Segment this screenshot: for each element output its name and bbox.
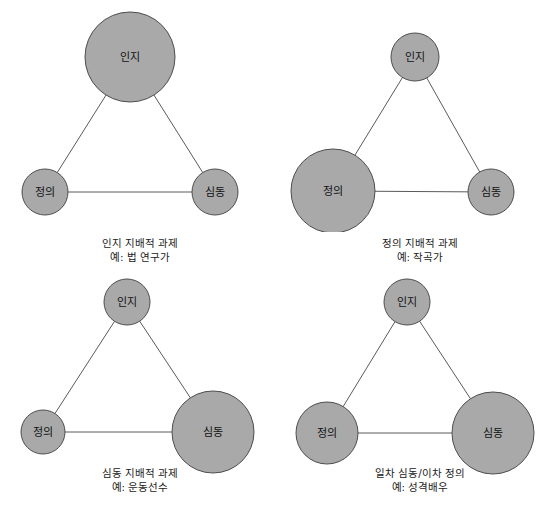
node-심동[interactable]: 심동 xyxy=(192,169,238,215)
edge-인지-심동 xyxy=(420,321,471,398)
panel-cognitive-dominant-diagram: 인지정의심동 xyxy=(0,0,280,232)
node-인지[interactable]: 인지 xyxy=(104,279,150,325)
node-label-인지: 인지 xyxy=(120,51,140,64)
edge-group xyxy=(55,321,190,432)
caption-example: 예: 성격배우 xyxy=(280,480,560,494)
node-label-정의: 정의 xyxy=(35,186,55,199)
caption-example: 예: 작곡가 xyxy=(280,250,560,264)
panel-primary-psychomotor-secondary-affective-diagram: 인지정의심동 xyxy=(280,270,560,475)
caption-example: 예: 운동선수 xyxy=(0,480,280,494)
node-인지[interactable]: 인지 xyxy=(85,12,175,102)
panel-affective-dominant-caption: 정의 지배적 과제예: 작곡가 xyxy=(280,236,560,264)
node-label-인지: 인지 xyxy=(117,296,137,309)
edge-인지-정의 xyxy=(55,321,115,413)
node-label-인지: 인지 xyxy=(397,296,417,309)
taxonomy-triangle-figure: 인지정의심동인지 지배적 과제예: 법 연구가인지정의심동정의 지배적 과제예:… xyxy=(0,0,560,521)
node-label-심동: 심동 xyxy=(205,186,225,199)
edge-group xyxy=(343,321,470,433)
edge-인지-정의 xyxy=(343,322,395,407)
panel-affective-dominant: 인지정의심동 xyxy=(280,0,560,232)
caption-example: 예: 법 연구가 xyxy=(0,250,280,264)
panel-primary-psychomotor-secondary-affective: 인지정의심동 xyxy=(280,270,560,475)
edge-인지-심동 xyxy=(154,95,203,172)
edge-group xyxy=(355,77,480,191)
caption-title: 인지 지배적 과제 xyxy=(0,236,280,250)
panel-psychomotor-dominant-caption: 심동 지배적 과제예: 운동선수 xyxy=(0,466,280,494)
panel-psychomotor-dominant: 인지정의심동 xyxy=(0,270,280,475)
panel-cognitive-dominant-caption: 인지 지배적 과제예: 법 연구가 xyxy=(0,236,280,264)
edge-인지-정의 xyxy=(355,77,403,155)
caption-title: 일차 심동/이차 정의 xyxy=(280,466,560,480)
edge-정의-심동 xyxy=(375,191,468,192)
caption-title: 정의 지배적 과제 xyxy=(280,236,560,250)
node-정의[interactable]: 정의 xyxy=(22,169,68,215)
node-label-심동: 심동 xyxy=(481,186,501,199)
node-label-정의: 정의 xyxy=(33,426,53,439)
node-label-심동: 심동 xyxy=(483,427,503,440)
node-심동[interactable]: 심동 xyxy=(452,392,534,474)
node-label-인지: 인지 xyxy=(405,51,425,64)
node-정의[interactable]: 정의 xyxy=(21,410,65,454)
panel-cognitive-dominant: 인지정의심동 xyxy=(0,0,280,232)
node-정의[interactable]: 정의 xyxy=(296,402,358,464)
node-label-심동: 심동 xyxy=(203,426,223,439)
node-심동[interactable]: 심동 xyxy=(172,391,254,473)
edge-인지-심동 xyxy=(140,321,191,398)
caption-title: 심동 지배적 과제 xyxy=(0,466,280,480)
node-label-정의: 정의 xyxy=(317,427,337,440)
edge-인지-심동 xyxy=(427,78,480,172)
edge-인지-정의 xyxy=(57,95,106,172)
panel-primary-psychomotor-secondary-affective-caption: 일차 심동/이차 정의예: 성격배우 xyxy=(280,466,560,494)
node-정의[interactable]: 정의 xyxy=(291,149,375,232)
edge-group xyxy=(57,95,202,192)
node-인지[interactable]: 인지 xyxy=(391,33,439,81)
node-심동[interactable]: 심동 xyxy=(468,169,514,215)
node-label-정의: 정의 xyxy=(323,185,343,198)
panel-psychomotor-dominant-diagram: 인지정의심동 xyxy=(0,270,280,475)
node-인지[interactable]: 인지 xyxy=(384,279,430,325)
panel-affective-dominant-diagram: 인지정의심동 xyxy=(280,0,560,232)
